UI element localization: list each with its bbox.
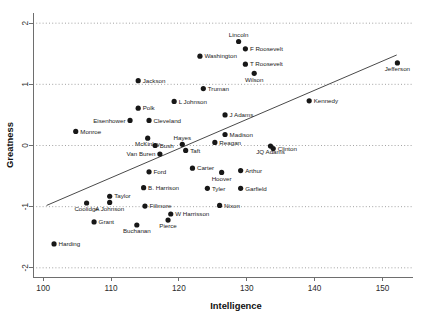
data-point [127,118,132,123]
data-point-label: McKinley [135,140,161,147]
data-point-label: Jefferson [385,65,411,72]
data-point-label: Monroe [80,128,102,135]
data-point [141,185,146,190]
y-axis-title: Greatness [4,122,15,168]
data-point-label: Hoover [212,175,232,182]
data-point [205,186,210,191]
data-point-label: W Harrisson [175,210,210,217]
data-point [201,86,206,91]
data-point [238,168,243,173]
data-point-label: A Johnson [95,205,124,212]
data-point-label: Polk [143,104,156,111]
data-point [238,186,243,191]
x-tick-label-120: 120 [172,284,186,293]
x-tick-label-140: 140 [308,284,322,293]
data-point [222,112,227,117]
data-point [91,219,96,224]
data-point-label: Grant [99,218,115,225]
data-point-label: Buchanan [123,227,151,234]
data-point [180,142,185,147]
data-point [212,140,217,145]
data-point-label: Nixon [224,202,240,209]
data-point-label: Harding [59,240,81,247]
data-point-label: Madison [230,131,254,138]
data-point [197,54,202,59]
data-point-label: Truman [208,85,230,92]
data-point [217,203,222,208]
data-point [243,62,248,67]
data-point-label: Clinton [278,145,298,152]
scatter-plot-figure: 100110120130140150-2-1012 HardingCoolidg… [0,0,421,317]
data-point-label: Washington [204,52,237,59]
data-point [236,39,241,44]
x-tick-label-130: 130 [240,284,254,293]
data-point-label: Fillmore [149,202,172,209]
data-point-label: F Roosevelt [250,45,283,52]
data-point [136,78,141,83]
data-point-label: Lincoln [229,31,249,38]
data-point [243,46,248,51]
data-point-label: Reagan [219,139,241,146]
data-point-label: Taft [190,147,200,154]
data-point-label: Hayes [174,134,192,141]
data-point-label: Jackson [143,77,166,84]
data-point [146,169,151,174]
data-point-label: L Johnson [179,98,208,105]
data-point-label: Bush [160,142,175,149]
data-point-label: Eisenhower [93,117,125,124]
data-point-label: Pierce [159,222,177,229]
data-point-label: J Adams [230,111,254,118]
data-point-label: Tyler [212,185,225,192]
data-point-label: Garfield [245,185,267,192]
data-point [190,166,195,171]
data-point [157,151,162,156]
y-tick-label-2: 2 [21,20,30,25]
data-point-label: Wilson [245,76,264,83]
data-point [73,129,78,134]
x-tick-label-100: 100 [36,284,50,293]
data-point-label: Cleveland [154,117,182,124]
data-point-label: B. Harrison [148,184,180,191]
y-tick-label--1: -1 [21,203,30,211]
data-point [307,98,312,103]
data-point [136,106,141,111]
x-axis-title: Intelligence [210,300,262,311]
y-tick-label-0: 0 [21,143,30,148]
x-tick-label-110: 110 [105,284,118,293]
data-point-labels: HardingCoolidgeGrantMonroeTaylorA Johnso… [59,31,411,247]
data-point-label: Van Buren [127,150,156,157]
data-point-label: Taylor [114,192,131,199]
data-point-label: Kennedy [314,97,339,104]
data-point-label: T Roosevelt [250,60,283,67]
axis-tick-labels: 100110120130140150-2-1012 [21,20,390,293]
data-point-label: Arthur [245,167,262,174]
data-point [183,148,188,153]
data-point [222,132,227,137]
y-tick-label-1: 1 [21,82,30,87]
data-point [51,241,56,246]
data-point [172,99,177,104]
data-point [146,118,151,123]
plot-canvas: 100110120130140150-2-1012 HardingCoolidg… [0,0,421,317]
data-point [168,211,173,216]
data-point [142,203,147,208]
y-tick-label--2: -2 [21,264,30,272]
data-point [107,194,112,199]
data-point-label: Ford [154,168,167,175]
data-point-label: Carter [197,164,214,171]
axis-ticks [29,23,382,281]
x-tick-label-150: 150 [376,284,390,293]
